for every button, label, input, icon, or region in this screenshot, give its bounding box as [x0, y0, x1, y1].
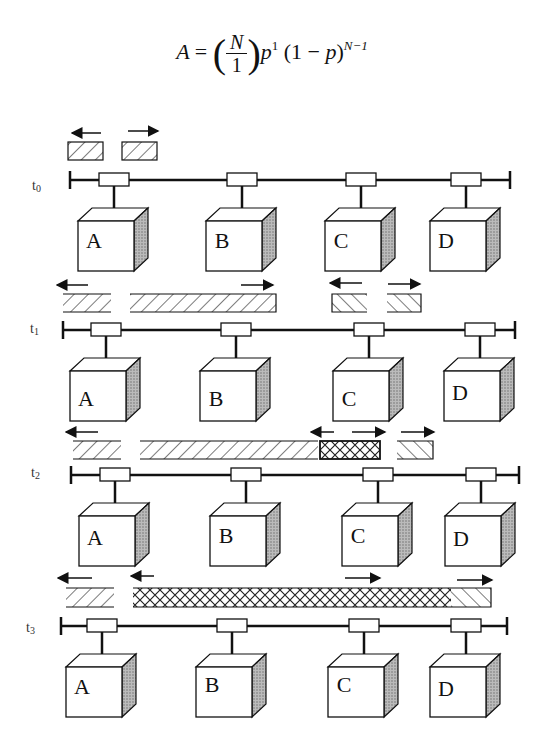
frame: [63, 294, 111, 312]
station-label: C: [337, 672, 352, 697]
station-label: B: [219, 523, 234, 548]
frame: [332, 294, 367, 312]
frame: [451, 588, 491, 607]
timestep-t1: t1 A B C D: [30, 283, 515, 421]
station-b: [196, 619, 266, 717]
timestep-label-t1: t1: [30, 321, 39, 337]
timestep-t0: t0 A B C D: [32, 131, 510, 271]
station-d: [445, 468, 515, 566]
station-a: [79, 468, 149, 566]
station-c: [325, 173, 395, 271]
frame: [73, 441, 121, 459]
frame-a-right: [122, 142, 157, 160]
frame: [130, 294, 276, 312]
collision-frame: [320, 441, 380, 459]
timestep-t2: t2 A B C D: [31, 432, 519, 566]
timestep-label-t0: t0: [32, 178, 41, 194]
station-label: D: [452, 380, 468, 405]
station-label: D: [453, 526, 469, 551]
station-a: [66, 619, 136, 717]
frame-a-left: [68, 142, 103, 160]
collision-frame: [133, 588, 451, 607]
frame: [140, 441, 318, 459]
station-label: B: [209, 386, 224, 411]
frame: [397, 441, 433, 459]
station-label: A: [86, 228, 102, 253]
station-label: B: [205, 672, 220, 697]
frame: [66, 588, 114, 607]
station-label: A: [87, 525, 103, 550]
station-label: C: [351, 523, 366, 548]
station-c: [342, 468, 412, 566]
station-a: [78, 173, 148, 271]
station-label: C: [342, 386, 357, 411]
frame: [387, 294, 421, 312]
station-c: [328, 619, 398, 717]
station-b: [210, 468, 280, 566]
station-d: [444, 323, 514, 421]
station-d: [430, 619, 500, 717]
station-label: B: [215, 228, 230, 253]
station-b: [206, 173, 276, 271]
station-label: C: [334, 228, 349, 253]
timestep-label-t3: t3: [26, 620, 35, 636]
station-label: A: [74, 674, 90, 699]
station-label: D: [438, 228, 454, 253]
station-d: [430, 173, 500, 271]
station-label: A: [78, 386, 94, 411]
station-label: D: [438, 676, 454, 701]
collision-diagram: t0 A B C D t1: [0, 0, 544, 739]
timestep-label-t2: t2: [31, 465, 40, 481]
timestep-t3: t3 A B C D: [26, 576, 507, 717]
